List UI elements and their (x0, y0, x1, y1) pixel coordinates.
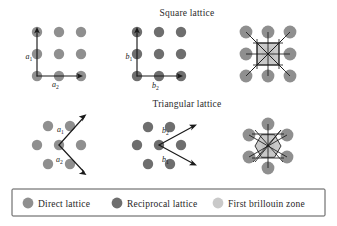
lattice-figure: Square lattice Triangular lattice a1 a2 (0, 0, 337, 226)
lattice-dot (54, 49, 64, 59)
lattice-dot (143, 122, 153, 132)
lattice-dot (65, 121, 75, 131)
legend: Direct lattice Reciprocal lattice First … (12, 189, 325, 216)
lattice-dot (76, 27, 86, 37)
square-bz-bisectors (252, 38, 284, 70)
lattice-dot (176, 140, 186, 150)
lattice-dot (76, 49, 86, 59)
square-direct-dots (32, 27, 86, 81)
lattice-dot (76, 140, 86, 150)
lattice-dot (154, 27, 164, 37)
lattice-dot (43, 121, 53, 131)
legend-swatch-reciprocal-lattice (112, 198, 123, 209)
lattice-dot (154, 49, 164, 59)
triangular-lattice-title: Triangular lattice (153, 99, 222, 109)
legend-label-direct-lattice: Direct lattice (38, 199, 90, 209)
lattice-dot (54, 27, 64, 37)
lattice-dot (143, 159, 153, 169)
lattice-dot (176, 27, 186, 37)
lattice-dot (32, 140, 42, 150)
legend-label-first-brillouin-zone: First brillouin zone (228, 199, 305, 209)
legend-swatch-direct-lattice (23, 198, 34, 209)
square-lattice-title: Square lattice (160, 8, 215, 18)
lattice-dot (176, 49, 186, 59)
lattice-dot (132, 140, 142, 150)
square-reciprocal-dots (132, 27, 186, 81)
legend-swatch-first-brillouin-zone (213, 198, 224, 209)
panel-square-brillouin (240, 26, 297, 83)
lattice-dot (43, 159, 53, 169)
legend-label-reciprocal-lattice: Reciprocal lattice (127, 199, 197, 209)
